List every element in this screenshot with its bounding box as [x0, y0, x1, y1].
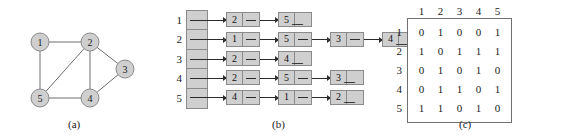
- list-node-value: 1: [279, 91, 295, 104]
- matrix-cell-5-4: 1: [472, 102, 486, 114]
- matrix-row-header-5: 5: [390, 102, 402, 114]
- adjacency-row-label-3: 3: [170, 53, 182, 65]
- null-pointer-slash-icon: [295, 52, 311, 65]
- matrix-cell-4-1: 0: [415, 83, 429, 95]
- matrix-cell-2-3: 1: [453, 45, 467, 57]
- graph-node-5[interactable]: 5: [31, 89, 49, 107]
- matrix-cell-4-3: 1: [453, 83, 467, 95]
- head-arrow-4: [190, 78, 226, 79]
- pointer-stub: [246, 97, 256, 98]
- next-arrow: [312, 97, 330, 98]
- matrix-cell-1-1: 0: [415, 26, 429, 38]
- adjacency-row-label-5: 5: [170, 92, 182, 104]
- head-arrow-2: [190, 39, 226, 40]
- list-node-value: 2: [227, 71, 243, 84]
- list-node-3-4[interactable]: 4: [278, 51, 312, 66]
- matrix-cell-2-5: 1: [491, 45, 505, 57]
- matrix-cell-5-1: 1: [415, 102, 429, 114]
- null-pointer-slash-icon: [347, 71, 363, 84]
- list-node-value: 2: [227, 13, 243, 26]
- graph-node-label: 5: [38, 93, 43, 104]
- pointer-stub: [246, 59, 256, 60]
- matrix-cell-5-5: 0: [491, 102, 505, 114]
- head-arrow-1: [190, 20, 226, 21]
- graph-edge-2-5: [46, 49, 84, 92]
- graph-node-2[interactable]: 2: [81, 33, 99, 51]
- null-pointer-slash-icon: [295, 13, 311, 26]
- matrix-col-header-5: 5: [491, 5, 505, 17]
- matrix-cell-1-5: 1: [491, 26, 505, 38]
- matrix-cell-4-2: 1: [434, 83, 448, 95]
- list-node-value: 2: [227, 52, 243, 65]
- matrix-row-header-4: 4: [390, 83, 402, 95]
- matrix-cell-1-4: 0: [472, 26, 486, 38]
- adjacency-list-panel: 12345 25153424253412 (b): [170, 0, 385, 140]
- list-node-1-5[interactable]: 5: [278, 12, 312, 27]
- next-arrow: [260, 97, 278, 98]
- graph-node-label: 3: [123, 64, 128, 75]
- matrix-cell-3-2: 1: [434, 64, 448, 76]
- caption-c: (c): [459, 118, 471, 130]
- matrix-cell-2-4: 1: [472, 45, 486, 57]
- graph-panel: 12345 (a): [0, 0, 170, 140]
- graph-node-label: 4: [88, 93, 93, 104]
- list-node-value: 4: [227, 91, 243, 104]
- matrix-cell-5-2: 1: [434, 102, 448, 114]
- matrix-cell-4-4: 0: [472, 83, 486, 95]
- matrix-row-header-1: 1: [390, 26, 402, 38]
- graph-node-1[interactable]: 1: [31, 33, 49, 51]
- pointer-stub: [298, 97, 308, 98]
- matrix-cell-2-2: 0: [434, 45, 448, 57]
- matrix-cell-2-1: 1: [415, 45, 429, 57]
- matrix-col-header-4: 4: [472, 5, 486, 17]
- graph-edge-2-3: [97, 47, 118, 63]
- matrix-cell-1-3: 0: [453, 26, 467, 38]
- matrix-col-header-1: 1: [415, 5, 429, 17]
- list-node-value: 3: [331, 33, 347, 46]
- graph-node-3[interactable]: 3: [116, 60, 134, 78]
- matrix-row-header-2: 2: [390, 45, 402, 57]
- adjacency-matrix-panel: 12345 12345 0100110111010100110111010 (c…: [385, 0, 569, 140]
- pointer-stub: [298, 78, 308, 79]
- matrix-cell-5-3: 0: [453, 102, 467, 114]
- next-arrow: [260, 59, 278, 60]
- head-arrow-5: [190, 97, 226, 98]
- list-node-value: 1: [227, 33, 243, 46]
- undirected-graph: 12345: [0, 0, 170, 120]
- graph-node-group: 12345: [31, 33, 134, 107]
- caption-a: (a): [68, 118, 80, 130]
- head-cell-1[interactable]: [187, 11, 207, 30]
- next-arrow: [312, 39, 330, 40]
- next-arrow: [260, 20, 278, 21]
- adjacency-row-label-2: 2: [170, 33, 182, 45]
- adjacency-row-label-1: 1: [170, 14, 182, 26]
- graph-edge-3-4: [97, 75, 118, 93]
- matrix-cell-3-1: 0: [415, 64, 429, 76]
- null-pointer-slash-icon: [347, 91, 363, 104]
- caption-b: (b): [272, 118, 285, 130]
- graph-node-4[interactable]: 4: [81, 89, 99, 107]
- graph-node-label: 1: [38, 37, 43, 48]
- pointer-stub: [246, 39, 256, 40]
- graph-node-label: 2: [88, 37, 93, 48]
- matrix-cell-4-5: 1: [491, 83, 505, 95]
- next-arrow: [364, 39, 382, 40]
- matrix-cell-3-3: 0: [453, 64, 467, 76]
- next-arrow: [312, 78, 330, 79]
- list-node-5-2[interactable]: 2: [330, 90, 364, 105]
- next-arrow: [260, 39, 278, 40]
- matrix-cell-3-4: 1: [472, 64, 486, 76]
- matrix-col-header-3: 3: [453, 5, 467, 17]
- pointer-stub: [246, 78, 256, 79]
- pointer-stub: [246, 20, 256, 21]
- pointer-stub: [298, 39, 308, 40]
- next-arrow: [260, 78, 278, 79]
- matrix-row-header-3: 3: [390, 64, 402, 76]
- list-node-4-3[interactable]: 3: [330, 70, 364, 85]
- matrix-cell-1-2: 1: [434, 26, 448, 38]
- pointer-stub: [350, 39, 360, 40]
- list-node-value: 5: [279, 71, 295, 84]
- head-arrow-3: [190, 59, 226, 60]
- adjacency-row-label-4: 4: [170, 72, 182, 84]
- list-node-value: 5: [279, 33, 295, 46]
